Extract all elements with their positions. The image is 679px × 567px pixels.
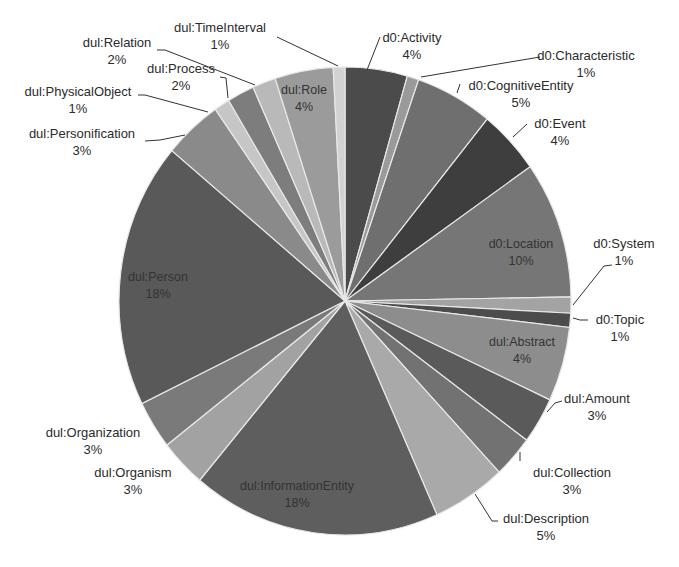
slice-percent: 3% xyxy=(84,442,103,457)
slice-label: d0:Characteristic1% xyxy=(537,48,635,80)
pie-chart: d0:Activity4%d0:Characteristic1%d0:Cogni… xyxy=(0,0,679,567)
slice-percent: 4% xyxy=(295,100,313,114)
slice-category: dul:Process xyxy=(147,61,215,76)
slice-category: d0:System xyxy=(593,236,654,251)
slice-percent: 4% xyxy=(513,352,531,366)
slice-percent: 18% xyxy=(284,496,309,510)
slice-category: dul:Organization xyxy=(46,425,141,440)
slice-percent: 1% xyxy=(615,253,634,268)
slice-label: dul:PhysicalObject1% xyxy=(25,84,132,116)
slice-percent: 1% xyxy=(69,101,88,116)
slice-percent: 10% xyxy=(508,254,533,268)
slice-category: dul:PhysicalObject xyxy=(25,84,132,99)
leader-line xyxy=(138,95,208,112)
slice-category: dul:InformationEntity xyxy=(240,479,355,493)
slice-percent: 2% xyxy=(172,78,191,93)
slice-label: d0:Event4% xyxy=(534,116,586,148)
slice-label: dul:TimeInterval1% xyxy=(174,20,266,52)
slice-label: dul:Process2% xyxy=(147,61,215,93)
slice-label: d0:System1% xyxy=(593,236,654,268)
slice-percent: 3% xyxy=(73,143,92,158)
slice-label: dul:Personification3% xyxy=(29,126,135,158)
slice-label: d0:CognitiveEntity5% xyxy=(469,78,574,110)
leader-line xyxy=(145,135,185,141)
slice-category: d0:Characteristic xyxy=(537,48,635,63)
leader-line xyxy=(457,84,460,93)
slice-percent: 4% xyxy=(403,47,422,62)
slice-percent: 2% xyxy=(108,52,127,67)
slice-percent: 3% xyxy=(563,482,582,497)
slice-category: d0:CognitiveEntity xyxy=(469,78,574,93)
slice-label: dul:Organization3% xyxy=(46,425,141,457)
slice-category: dul:Personification xyxy=(29,126,135,141)
slice-category: dul:Person xyxy=(128,270,188,284)
slice-percent: 1% xyxy=(611,329,630,344)
slice-percent: 3% xyxy=(588,408,607,423)
slice-label: d0:Topic1% xyxy=(596,312,645,344)
slice-category: d0:Event xyxy=(534,116,586,131)
slice-percent: 1% xyxy=(577,65,596,80)
slice-percent: 4% xyxy=(551,133,570,148)
slice-category: dul:Organism xyxy=(94,465,171,480)
slice-category: dul:Amount xyxy=(564,391,630,406)
slice-percent: 3% xyxy=(124,482,143,497)
slice-label: d0:Activity4% xyxy=(382,30,442,62)
slice-label: dul:Organism3% xyxy=(94,465,171,497)
leader-line xyxy=(220,77,228,98)
slice-category: dul:Description xyxy=(503,511,589,526)
leader-line xyxy=(421,57,540,77)
slice-label: dul:Collection3% xyxy=(533,465,611,497)
leader-line xyxy=(573,265,612,305)
leader-line xyxy=(513,124,527,137)
slice-label: dul:Relation2% xyxy=(83,35,152,67)
slice-category: d0:Location xyxy=(489,237,554,251)
slice-percent: 1% xyxy=(211,37,230,52)
slice-label: dul:Description5% xyxy=(503,511,589,543)
slice-percent: 18% xyxy=(145,287,170,301)
leader-line xyxy=(573,318,588,320)
slice-category: dul:TimeInterval xyxy=(174,20,266,35)
slice-percent: 5% xyxy=(537,528,556,543)
slice-category: dul:Relation xyxy=(83,35,152,50)
slice-percent: 5% xyxy=(512,95,531,110)
slice-label: dul:Amount3% xyxy=(564,391,630,423)
slice-category: d0:Topic xyxy=(596,312,645,327)
leader-line xyxy=(547,401,562,412)
leader-line xyxy=(475,494,498,521)
pie-slices xyxy=(119,67,571,535)
leader-line xyxy=(367,37,380,70)
slice-category: dul:Abstract xyxy=(489,335,556,349)
slice-category: dul:Collection xyxy=(533,465,611,480)
slice-category: dul:Role xyxy=(281,83,327,97)
leader-line xyxy=(277,37,338,66)
slice-category: d0:Activity xyxy=(382,30,442,45)
